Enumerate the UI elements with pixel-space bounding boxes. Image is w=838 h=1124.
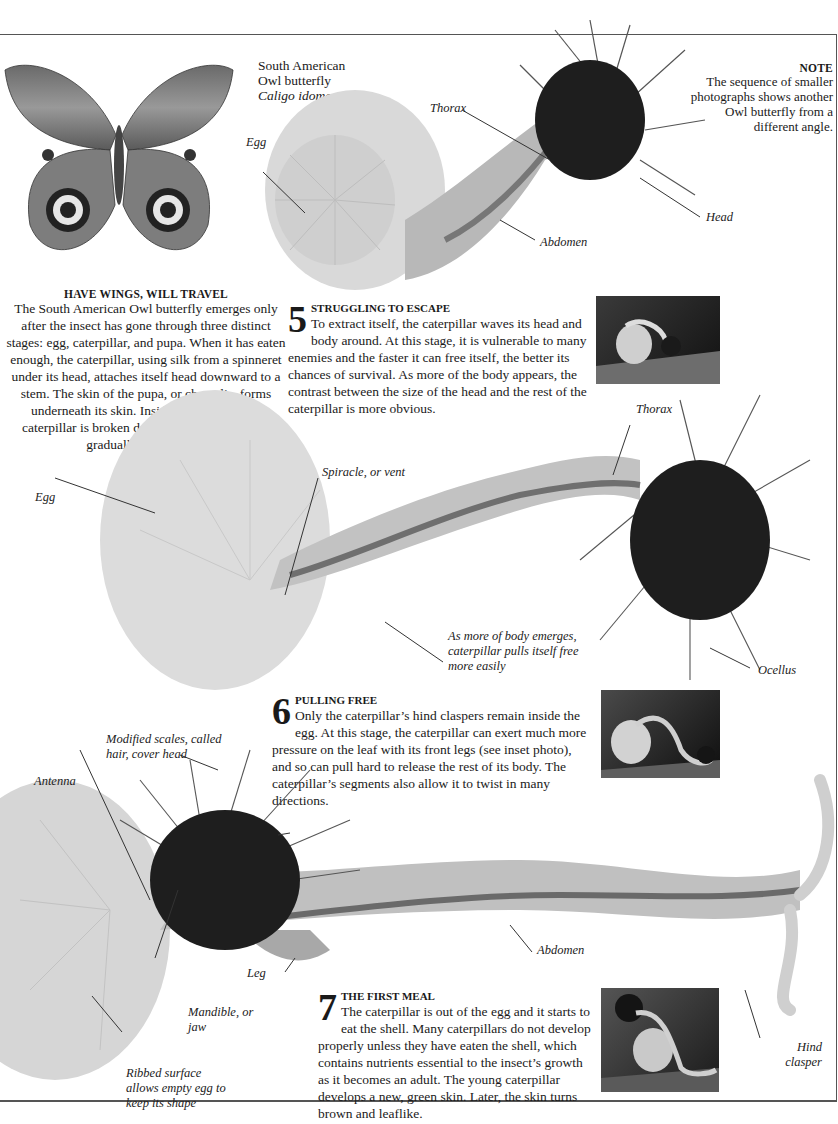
label-abdomen-s5: Abdomen <box>540 235 587 250</box>
stage6-leader-lines <box>0 400 838 700</box>
stage6-number: 6 <box>272 696 291 726</box>
stage6-title: PULLING FREE <box>272 694 590 707</box>
stage7-title: THE FIRST MEAL <box>318 990 593 1003</box>
label-head-s5: Head <box>706 210 733 225</box>
label-hind-clasper: Hind clasper <box>772 1040 822 1070</box>
label-ribbed-surface: Ribbed surface allows empty egg to keep … <box>126 1066 226 1111</box>
stage5-inset-photo <box>596 296 720 384</box>
label-mandible: Mandible, or jaw <box>188 1005 258 1035</box>
stage7-caption: 7 THE FIRST MEAL The caterpillar is out … <box>318 990 593 1122</box>
label-thorax-s6: Thorax <box>636 402 672 417</box>
label-antenna: Antenna <box>34 774 76 789</box>
label-ocellus: Ocellus <box>758 663 796 678</box>
label-body-emerges: As more of body emerges, caterpillar pul… <box>448 629 598 674</box>
stage7-inset-photo <box>601 988 719 1092</box>
label-spiracle: Spiracle, or vent <box>322 465 405 480</box>
stage7-body: The caterpillar is out of the egg and it… <box>318 1004 591 1121</box>
label-modified-scales: Modified scales, called hair, cover head <box>106 732 246 762</box>
label-egg-s6: Egg <box>35 490 55 505</box>
stage5-number: 5 <box>288 304 307 334</box>
stage5-title: STRUGGLING TO ESCAPE <box>288 302 588 315</box>
label-egg-s5: Egg <box>246 135 266 150</box>
stage7-number: 7 <box>318 992 337 1022</box>
stage5-leader-lines <box>0 0 838 300</box>
label-abdomen-s7: Abdomen <box>537 943 584 958</box>
label-leg: Leg <box>247 966 266 981</box>
label-thorax-s5: Thorax <box>430 101 466 116</box>
